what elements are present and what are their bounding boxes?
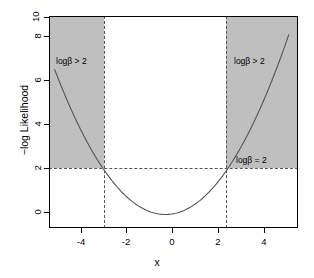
likelihood-profile-figure: logβ > 2 logβ > 2 logβ = 2 -4 -2 0 2 4 0… — [0, 0, 314, 278]
plot-area: logβ > 2 logβ > 2 logβ = 2 — [49, 16, 298, 228]
annotation-left-region: logβ > 2 — [56, 57, 87, 66]
ytick-mark — [44, 212, 49, 213]
xtick-mark — [81, 228, 82, 233]
annotation-right-region: logβ > 2 — [234, 57, 265, 66]
xtick-mark — [264, 228, 265, 233]
likelihood-curve — [49, 16, 298, 228]
xtick-label: 0 — [157, 237, 187, 247]
ytick-label: 4 — [33, 112, 43, 136]
xtick-label: -4 — [66, 237, 96, 247]
xtick-label: 4 — [249, 237, 279, 247]
ytick-mark — [44, 17, 49, 18]
annotation-threshold: logβ = 2 — [236, 156, 267, 165]
xtick-mark — [218, 228, 219, 233]
ytick-mark — [44, 168, 49, 169]
ytick-label: 6 — [33, 68, 43, 92]
ytick-label: 10 — [31, 5, 41, 29]
y-axis-label: −log Likelihood — [18, 60, 30, 180]
ytick-label: 0 — [33, 200, 43, 224]
xtick-label: -2 — [111, 237, 141, 247]
ytick-label: 2 — [33, 156, 43, 180]
xtick-mark — [172, 228, 173, 233]
xtick-mark — [126, 228, 127, 233]
xtick-label: 2 — [203, 237, 233, 247]
ytick-mark — [44, 36, 49, 37]
ytick-mark — [44, 80, 49, 81]
ytick-mark — [44, 124, 49, 125]
x-axis-label: x — [0, 256, 314, 268]
